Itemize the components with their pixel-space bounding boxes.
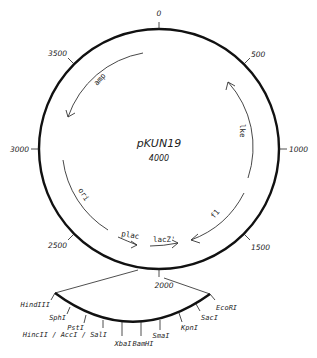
tick-label-1000: 1000	[289, 145, 308, 154]
site-label-saci: SacI	[201, 314, 219, 322]
feature-label-amp: amp	[92, 71, 108, 87]
tick-label-0: 0	[157, 9, 162, 18]
tick-label-500: 500	[251, 50, 266, 59]
feature-label-lke: lke	[238, 124, 247, 138]
plac-arrowhead-icon	[131, 241, 137, 248]
tick-saci	[196, 304, 200, 311]
tick-hindiii	[51, 293, 55, 300]
tick-psti	[84, 315, 86, 323]
plasmid-map: 0 500 1000 1500 2000 2500 3000 3500 pKUN…	[0, 0, 317, 358]
site-label-xbai: XbaI	[114, 340, 133, 348]
mcs-arc	[55, 293, 210, 322]
tick-label-2500: 2500	[48, 241, 67, 250]
site-label-smai: SmaI	[153, 332, 171, 340]
mcs-guide-left	[55, 270, 138, 293]
feature-label-ori: ori	[76, 186, 91, 202]
site-label-hincii-acci-sali: HincII / AccI / SalI	[22, 331, 108, 339]
site-label-hindiii: HindIII	[19, 301, 50, 309]
plasmid-size: 4000	[149, 154, 169, 163]
tick-sphi	[67, 307, 70, 314]
tick-3500	[68, 58, 74, 64]
tick-kpni	[179, 313, 182, 322]
tick-label-2000: 2000	[154, 281, 173, 290]
tick-2500	[68, 234, 74, 240]
tick-label-1500: 1500	[251, 243, 270, 252]
site-label-kpni: KpnI	[180, 324, 199, 332]
site-label-sphi: SphI	[49, 314, 67, 322]
plasmid-name: pKUN19	[136, 137, 181, 150]
site-label-ecori: EcoRI	[216, 304, 238, 312]
tick-500	[244, 58, 250, 64]
feature-label-f1: f1	[209, 208, 222, 221]
amp-arc	[68, 53, 143, 117]
feature-label-lacz: lacZ'	[153, 235, 176, 244]
tick-label-3000: 3000	[10, 145, 29, 154]
site-label-bamhi: BamHI	[132, 340, 154, 348]
tick-label-3500: 3500	[48, 49, 67, 58]
tick-1500	[244, 234, 250, 240]
tick-ecori	[210, 294, 215, 300]
